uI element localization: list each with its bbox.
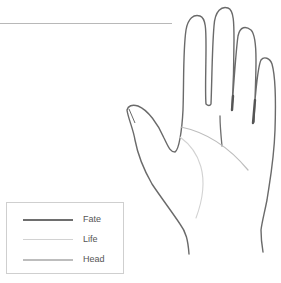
head-line (181, 127, 248, 170)
finger-gap-accent (232, 96, 233, 110)
life-swatch (23, 239, 73, 240)
fate-line (220, 116, 222, 146)
legend-item-life: Life (7, 232, 123, 246)
legend-label: Life (83, 232, 98, 246)
legend-item-head: Head (7, 252, 123, 266)
legend-label: Fate (83, 212, 101, 226)
hand-outline (127, 8, 276, 254)
fate-swatch (23, 219, 73, 221)
legend-item-fate: Fate (7, 212, 123, 226)
legend-label: Head (83, 252, 105, 266)
life-line (180, 137, 203, 218)
head-swatch (23, 259, 73, 261)
legend: Fate Life Head (6, 202, 124, 274)
